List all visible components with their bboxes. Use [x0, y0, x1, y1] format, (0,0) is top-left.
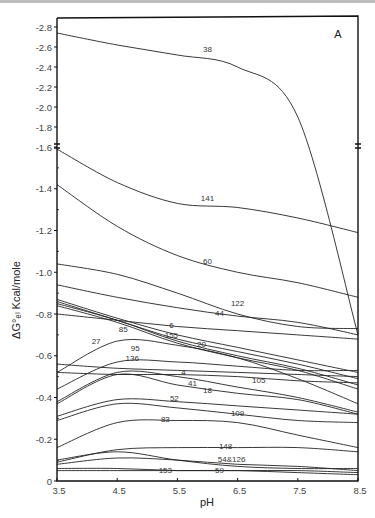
y-tick-label: -1.0 [36, 267, 52, 278]
x-tick-label: 3.5 [52, 485, 65, 496]
curve-label: 27 [92, 337, 101, 346]
curve-38 [57, 33, 358, 335]
curve-label: 85 [119, 325, 128, 334]
curve-label: 141 [201, 194, 215, 203]
curve-label: 136 [126, 354, 140, 363]
curve-label: 148 [219, 442, 233, 451]
x-tick-label: 4.5 [113, 485, 126, 496]
curve-label: 52 [170, 394, 179, 403]
y-tick-label: -1.8 [36, 122, 52, 133]
curve-label: 4 [181, 368, 186, 377]
curve-label: 105 [252, 376, 266, 385]
curve-label: 54&126 [218, 455, 246, 464]
y-tick-label: -2.4 [36, 62, 52, 73]
curve-label: 59 [215, 466, 224, 475]
x-tick-label: 5.5 [173, 485, 186, 496]
curve-85 [57, 304, 358, 385]
curve-label: 95 [131, 344, 140, 353]
curve-52 [57, 399, 358, 417]
curve-labels-group: 3814160122446155208595271364411051852109… [92, 45, 266, 475]
curve-109 [57, 403, 358, 422]
y-tick-label: 0 [47, 476, 52, 487]
curve-label: 153 [159, 466, 173, 475]
ph-free-energy-line-chart: -2.8-2.6-2.4-2.2-2.0-1.8-1.6-1.4-1.2-1.0… [0, 0, 375, 518]
curves-group [57, 33, 358, 475]
y-tick-label: -0.6 [36, 350, 52, 361]
y-axis-title: ΔG°ₑₗ Kcal/mole [10, 261, 22, 339]
curve-label: 60 [203, 257, 212, 266]
curve-label: 6 [169, 321, 174, 330]
y-tick-label: -0.4 [36, 392, 52, 403]
curve-83 [57, 420, 358, 448]
curve-label: 155 [165, 331, 179, 340]
curve-148 [57, 447, 358, 462]
curve-141 [57, 149, 358, 233]
curve-label: 20 [197, 340, 206, 349]
curve-label: 38 [203, 45, 212, 54]
curve-label: 83 [161, 415, 170, 424]
curve-label: 122 [231, 299, 245, 308]
y-tick-label: -2.0 [36, 102, 52, 113]
y-tick-label: -2.2 [36, 82, 52, 93]
curve-label: 44 [215, 309, 224, 318]
curve-95 [57, 306, 358, 389]
x-tick-label: 7.5 [293, 485, 306, 496]
y-tick-label: -2.6 [36, 42, 52, 53]
x-tick-label: 6.5 [233, 485, 246, 496]
y-tick-label: -1.2 [36, 225, 52, 236]
y-tick-label: -1.6 [36, 142, 52, 153]
x-tick-label: 8.5 [353, 485, 366, 496]
curve-54-and-126 [57, 452, 358, 469]
y-axis-ticks: -2.8-2.6-2.4-2.2-2.0-1.8-1.6-1.4-1.2-1.0… [36, 22, 59, 487]
y-tick-label: -0.8 [36, 309, 52, 320]
curve-label: 109 [231, 409, 245, 418]
panel-label: A [334, 28, 342, 40]
y-tick-label: -2.8 [36, 22, 52, 33]
curve-label: 41 [188, 379, 197, 388]
y-tick-label: -1.4 [36, 183, 52, 194]
curve-label: 18 [203, 386, 212, 395]
y-tick-label: -0.2 [36, 434, 52, 445]
x-axis-title: pH [200, 496, 214, 508]
